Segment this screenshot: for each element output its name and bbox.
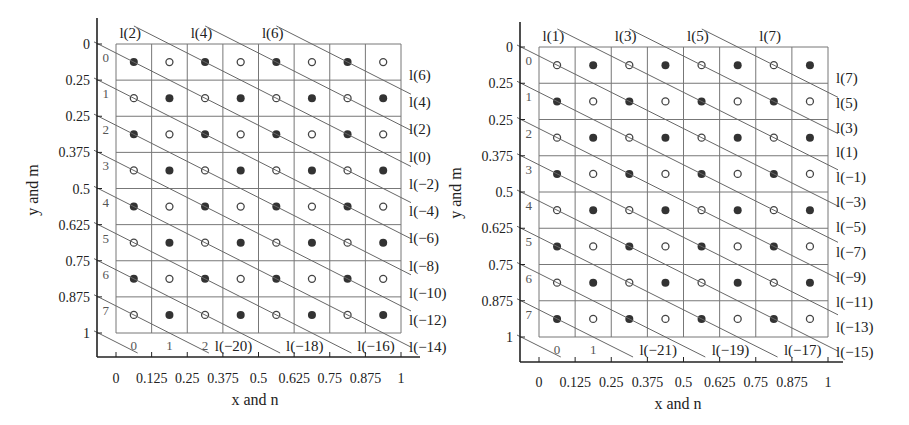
bottom-line-label: l(−20) <box>215 338 253 355</box>
right-line-label: l(−1) <box>836 169 866 186</box>
filled-dot <box>589 206 597 214</box>
hollow-dot <box>662 243 669 250</box>
col-label: 0 <box>554 342 561 357</box>
hollow-dot <box>734 315 741 322</box>
filled-dot <box>165 166 173 174</box>
filled-dot <box>165 239 173 247</box>
y-tick-label: 0 <box>506 40 513 55</box>
x-tick-label: 0.375 <box>207 371 239 386</box>
diagonal-line <box>94 186 411 347</box>
bottom-line-label: l(−18) <box>286 338 324 355</box>
y-tick-label: 0 <box>83 37 90 52</box>
hollow-dot <box>734 243 741 250</box>
right-line-label: l(−15) <box>836 344 874 361</box>
filled-dot <box>308 311 316 319</box>
row-label: 5 <box>526 234 533 249</box>
right-line-label: l(−13) <box>836 319 874 336</box>
y-tick-label: 0.25 <box>489 113 514 128</box>
hollow-dot <box>590 170 597 177</box>
top-line-label: l(5) <box>687 28 709 45</box>
panel-right: 00.250.250.3750.50.6250.750.875100.1250.… <box>447 22 874 412</box>
y-tick-label: 0.375 <box>59 145 91 160</box>
x-tick-label: 0.5 <box>250 371 268 386</box>
row-label: 3 <box>103 158 110 173</box>
bottom-line-label: l(−17) <box>784 342 822 359</box>
hollow-dot <box>590 315 597 322</box>
filled-dot <box>237 311 245 319</box>
hollow-dot <box>662 170 669 177</box>
right-line-label: l(0) <box>409 149 431 166</box>
x-tick-label: 0.875 <box>776 375 808 390</box>
filled-dot <box>734 279 742 287</box>
right-line-label: l(−12) <box>409 312 447 329</box>
hollow-dot <box>662 315 669 322</box>
filled-dot <box>379 166 387 174</box>
x-tick-label: 1 <box>825 375 832 390</box>
right-line-label: l(5) <box>836 95 858 112</box>
x-tick-label: 0.125 <box>136 371 168 386</box>
filled-dot <box>734 206 742 214</box>
col-label: 2 <box>202 338 209 353</box>
diagonal-line <box>94 78 411 239</box>
row-label: 4 <box>103 195 110 210</box>
diagonal-line <box>276 26 411 94</box>
y-tick-label: 0.25 <box>66 73 91 88</box>
row-label: 6 <box>526 271 533 286</box>
diagonal-line <box>557 29 838 170</box>
row-label: 7 <box>526 307 533 322</box>
y-tick-label: 0.5 <box>496 185 514 200</box>
diagonal-line <box>517 118 838 279</box>
filled-dot <box>589 61 597 69</box>
right-line-label: l(−4) <box>409 203 439 220</box>
x-tick-label: 0.625 <box>704 375 736 390</box>
y-tick-label: 0.625 <box>59 218 91 233</box>
filled-dot <box>589 279 597 287</box>
panel-left: 00.250.250.3750.50.6250.750.875100.1250.… <box>24 18 447 408</box>
hollow-dot <box>590 98 597 105</box>
filled-dot <box>308 239 316 247</box>
x-tick-label: 0 <box>536 375 543 390</box>
filled-dot <box>237 166 245 174</box>
hollow-dot <box>237 275 244 282</box>
filled-dot <box>165 311 173 319</box>
filled-dot <box>806 61 814 69</box>
right-line-label: l(−3) <box>836 194 866 211</box>
row-label: 7 <box>103 303 110 318</box>
hollow-dot <box>734 98 741 105</box>
col-label: 1 <box>590 342 597 357</box>
row-label: 0 <box>526 53 533 68</box>
filled-dot <box>661 206 669 214</box>
row-label: 5 <box>103 231 110 246</box>
hollow-dot <box>662 98 669 105</box>
filled-dot <box>379 239 387 247</box>
hollow-dot <box>806 243 813 250</box>
hollow-dot <box>380 203 387 210</box>
filled-dot <box>165 94 173 102</box>
x-tick-label: 1 <box>398 371 405 386</box>
top-line-label: l(7) <box>759 28 781 45</box>
x-tick-label: 0.125 <box>559 375 591 390</box>
y-tick-label: 0.875 <box>59 290 91 305</box>
top-line-label: l(2) <box>119 25 141 42</box>
hollow-dot <box>380 275 387 282</box>
x-tick-label: 0.375 <box>632 375 664 390</box>
row-label: 4 <box>526 198 533 213</box>
top-line-label: l(3) <box>615 28 637 45</box>
x-tick-label: 0.875 <box>350 371 382 386</box>
right-line-label: l(−9) <box>836 269 866 286</box>
filled-dot <box>806 279 814 287</box>
diagonal-line <box>94 150 411 311</box>
y-tick-label: 0.375 <box>482 149 514 164</box>
hollow-dot <box>308 275 315 282</box>
right-line-label: l(−2) <box>409 176 439 193</box>
hollow-dot <box>380 59 387 66</box>
diagonal-line <box>94 42 411 203</box>
filled-dot <box>379 311 387 319</box>
figure: 00.250.250.3750.50.6250.750.875100.1250.… <box>0 0 909 425</box>
row-label: 1 <box>526 89 533 104</box>
hollow-dot <box>166 275 173 282</box>
y-axis-title: y and m <box>24 164 42 216</box>
right-line-label: l(−7) <box>836 244 866 261</box>
hollow-dot <box>590 243 597 250</box>
filled-dot <box>308 94 316 102</box>
